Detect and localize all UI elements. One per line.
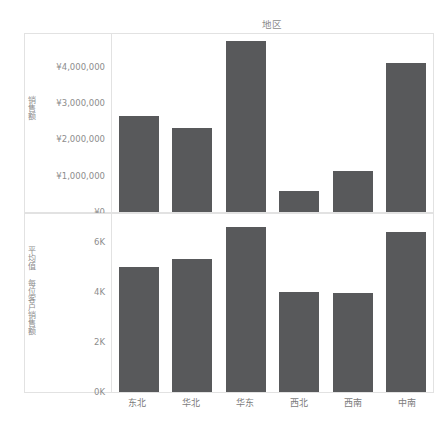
y-axis-avg-sales: 6K4K2K0K — [25, 214, 111, 392]
bar-西南[interactable] — [333, 171, 373, 212]
bar-slot — [219, 34, 273, 212]
bar-西北[interactable] — [279, 191, 319, 212]
y-axis-tick-label: ¥1,000,000 — [25, 171, 111, 181]
bottom-caption-strip — [0, 412, 434, 427]
x-axis-categories: 东北华北华东西北西南中南 — [110, 394, 434, 412]
column-header: 地区 — [110, 16, 434, 32]
bar-slot — [166, 214, 220, 392]
column-header-label: 地区 — [262, 17, 282, 31]
y-axis-tick-label: ¥2,000,000 — [25, 134, 111, 144]
x-axis-label-西北[interactable]: 西北 — [272, 394, 326, 412]
chart-panel-avg-sales: 6K4K2K0K — [24, 213, 434, 393]
x-axis-label-华北[interactable]: 华北 — [164, 394, 218, 412]
bar-东北[interactable] — [119, 267, 159, 392]
x-axis-label-东北[interactable]: 东北 — [110, 394, 164, 412]
bar-slot — [112, 34, 166, 212]
bar-华东[interactable] — [226, 227, 266, 392]
plot-area-sales — [111, 34, 433, 212]
bar-slot — [380, 214, 434, 392]
bar-slot — [219, 214, 273, 392]
y-axis-tick-label: 6K — [25, 237, 111, 247]
y-axis-tick-label: 2K — [25, 337, 111, 347]
worksheet: 地区 ¥4,000,000¥3,000,000¥2,000,000¥1,000,… — [0, 0, 434, 427]
y-axis-tick-label: 4K — [25, 287, 111, 297]
bar-华北[interactable] — [172, 128, 212, 212]
x-axis-label-中南[interactable]: 中南 — [380, 394, 434, 412]
bar-西南[interactable] — [333, 293, 373, 392]
bar-slot — [380, 34, 434, 212]
x-axis-label-西南[interactable]: 西南 — [326, 394, 380, 412]
y-axis-title-avg-sales: 平均值 每位客户销售额 — [26, 246, 34, 335]
bar-slot — [273, 214, 327, 392]
bar-中南[interactable] — [386, 232, 426, 392]
y-axis-tick-label: ¥3,000,000 — [25, 98, 111, 108]
x-axis-label-华东[interactable]: 华东 — [218, 394, 272, 412]
bar-series-sales — [112, 34, 433, 212]
bar-华北[interactable] — [172, 259, 212, 392]
bar-slot — [166, 34, 220, 212]
y-axis-sales: ¥4,000,000¥3,000,000¥2,000,000¥1,000,000… — [25, 34, 111, 212]
chart-panel-sales: ¥4,000,000¥3,000,000¥2,000,000¥1,000,000… — [24, 33, 434, 213]
bar-series-avg-sales — [112, 214, 433, 392]
bar-slot — [326, 214, 380, 392]
bar-中南[interactable] — [386, 63, 426, 212]
y-axis-tick-label: ¥4,000,000 — [25, 62, 111, 72]
bar-slot — [326, 34, 380, 212]
y-axis-title-sales: 销售额 — [26, 96, 34, 120]
bar-slot — [112, 214, 166, 392]
bar-西北[interactable] — [279, 292, 319, 392]
top-caption-strip — [0, 0, 434, 14]
bar-华东[interactable] — [226, 41, 266, 212]
plot-area-avg-sales — [111, 214, 433, 392]
bar-东北[interactable] — [119, 116, 159, 212]
bar-slot — [273, 34, 327, 212]
y-axis-tick-label: 0K — [25, 387, 111, 397]
